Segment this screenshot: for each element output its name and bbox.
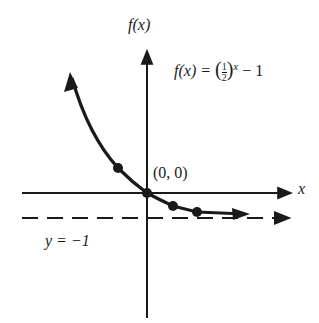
plot-area (0, 0, 319, 323)
function-rhs: − 1 (238, 62, 263, 79)
y-axis-label: f(x) (128, 16, 150, 34)
data-point (168, 201, 178, 211)
x-axis-label: x (298, 180, 305, 198)
function-lhs: f(x) = (174, 62, 215, 79)
data-point (113, 163, 123, 173)
data-point (142, 188, 152, 198)
graph-figure: f(x) x (0, 0) y = −1 f(x) = (12)x − 1 (0, 0, 319, 323)
data-point (192, 207, 202, 217)
origin-label: (0, 0) (153, 164, 188, 182)
function-label: f(x) = (12)x − 1 (174, 58, 263, 83)
asymptote-label: y = −1 (45, 232, 90, 250)
